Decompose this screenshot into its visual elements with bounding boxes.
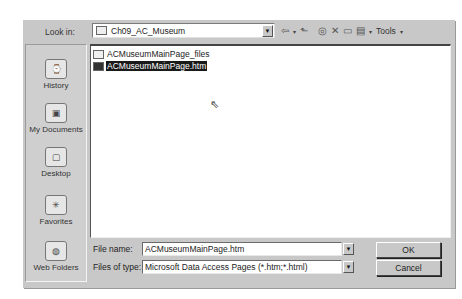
- look-in-value: Ch09_AC_Museum: [111, 26, 262, 36]
- folder-icon: [93, 50, 104, 59]
- tools-menu[interactable]: Tools: [376, 26, 396, 36]
- up-folder-icon[interactable]: ⬑: [300, 25, 308, 37]
- place-label: Favorites: [26, 217, 86, 226]
- file-name: ACMuseumMainPage_files: [106, 49, 211, 59]
- file-list[interactable]: ACMuseumMainPage_files ACMuseumMainPage.…: [90, 44, 451, 238]
- favorites-icon: ✳: [45, 195, 67, 215]
- my-documents-icon: ▣: [45, 103, 67, 123]
- place-history[interactable]: ⌚ History: [26, 59, 86, 90]
- search-web-icon[interactable]: ◎: [318, 25, 327, 37]
- mouse-cursor-icon: ⇖: [210, 98, 219, 111]
- file-name-label: File name:: [93, 244, 133, 254]
- look-in-dropdown-arrow[interactable]: ▼: [262, 25, 273, 37]
- place-desktop[interactable]: ▢ Desktop: [26, 147, 86, 178]
- file-type-label: Files of type:: [93, 262, 141, 272]
- toolbar: ⇦ ▾ ⬑ ◎ ✕ ▭ ▤ ▾ Tools ▾: [281, 24, 403, 38]
- place-label: My Documents: [26, 125, 86, 134]
- cancel-button[interactable]: Cancel: [376, 260, 441, 276]
- places-bar: ⌚ History ▣ My Documents ▢ Desktop ✳ Fav…: [25, 44, 87, 282]
- file-type-dropdown-arrow[interactable]: ▼: [343, 261, 354, 273]
- file-open-dialog: Look in: Ch09_AC_Museum ▼ ⇦ ▾ ⬑ ◎ ✕ ▭ ▤ …: [23, 20, 455, 288]
- place-web-folders[interactable]: ◍ Web Folders: [26, 241, 86, 272]
- place-label: History: [26, 81, 86, 90]
- file-type-select[interactable]: Microsoft Data Access Pages (*.htm;*.htm…: [142, 260, 342, 274]
- html-file-icon: [93, 62, 104, 71]
- place-favorites[interactable]: ✳ Favorites: [26, 195, 86, 226]
- look-in-dropdown[interactable]: Ch09_AC_Museum ▼: [92, 23, 275, 38]
- back-dropdown-icon[interactable]: ▾: [293, 28, 296, 35]
- views-icon[interactable]: ▤: [356, 25, 365, 37]
- look-in-label: Look in:: [45, 27, 75, 37]
- file-name-dropdown-arrow[interactable]: ▼: [343, 243, 354, 255]
- history-icon: ⌚: [45, 59, 67, 79]
- file-list-item-selected[interactable]: ACMuseumMainPage.htm: [93, 60, 207, 72]
- web-folders-icon: ◍: [45, 241, 67, 261]
- file-list-item[interactable]: ACMuseumMainPage_files: [93, 48, 211, 60]
- place-label: Desktop: [26, 169, 86, 178]
- desktop-icon: ▢: [45, 147, 67, 167]
- file-name-input[interactable]: ACMuseumMainPage.htm: [142, 242, 342, 256]
- new-folder-icon[interactable]: ▭: [343, 25, 352, 37]
- place-label: Web Folders: [26, 263, 86, 272]
- views-dropdown-icon[interactable]: ▾: [369, 28, 372, 35]
- folder-icon: [96, 26, 107, 35]
- file-name: ACMuseumMainPage.htm: [106, 61, 207, 71]
- place-my-documents[interactable]: ▣ My Documents: [26, 103, 86, 134]
- delete-icon[interactable]: ✕: [331, 25, 339, 37]
- tools-dropdown-icon[interactable]: ▾: [400, 28, 403, 35]
- back-icon[interactable]: ⇦: [281, 25, 289, 37]
- ok-button[interactable]: OK: [376, 242, 441, 258]
